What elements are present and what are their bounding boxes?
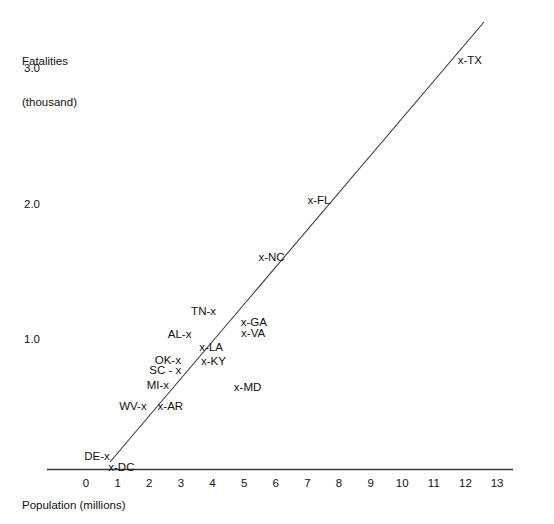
y-tick-2-0: 2.0 xyxy=(24,198,40,210)
point-label-ok: OK-x xyxy=(155,354,181,366)
point-label-al: AL-x xyxy=(168,328,192,340)
x-tick-13: 13 xyxy=(491,477,504,489)
point-label-fl: x-FL xyxy=(308,194,331,206)
x-tick-5: 5 xyxy=(241,477,247,489)
point-label-la: x-LA xyxy=(199,341,223,353)
y-tick-3-0: 3.0 xyxy=(24,62,40,74)
point-label-md: x-MD xyxy=(234,381,261,393)
point-label-de: DE-x xyxy=(84,450,110,462)
point-label-ky: x-KY xyxy=(201,355,226,367)
x-tick-12: 12 xyxy=(459,477,472,489)
x-axis-title: Population (millions) xyxy=(22,499,126,513)
x-tick-0: 0 xyxy=(83,477,89,489)
point-label-sc: SC - x xyxy=(149,364,181,376)
y-axis-title: Fatalities (thousand) xyxy=(22,28,77,123)
y-axis-title-line2: (thousand) xyxy=(22,96,77,110)
point-label-ga: x-GA xyxy=(241,316,267,328)
point-label-mi: MI-x xyxy=(147,379,169,391)
y-tick-1-0: 1.0 xyxy=(24,333,40,345)
x-tick-11: 11 xyxy=(428,477,440,489)
x-tick-1: 1 xyxy=(114,477,120,489)
x-tick-8: 8 xyxy=(336,477,342,489)
x-tick-10: 10 xyxy=(396,477,409,489)
point-label-tn: TN-x xyxy=(191,305,216,317)
point-label-wv: WV-x xyxy=(119,400,146,412)
point-label-nc: x-NC xyxy=(258,251,284,263)
x-tick-3: 3 xyxy=(178,477,184,489)
point-label-ar: x-AR xyxy=(158,400,184,412)
x-tick-7: 7 xyxy=(304,477,310,489)
x-tick-2: 2 xyxy=(146,477,152,489)
point-label-dc: x-DC xyxy=(108,461,134,473)
x-tick-9: 9 xyxy=(367,477,373,489)
point-label-tx: x-TX xyxy=(458,54,482,66)
x-tick-6: 6 xyxy=(273,477,279,489)
x-tick-4: 4 xyxy=(209,477,215,489)
point-label-va: x-VA xyxy=(241,327,265,339)
